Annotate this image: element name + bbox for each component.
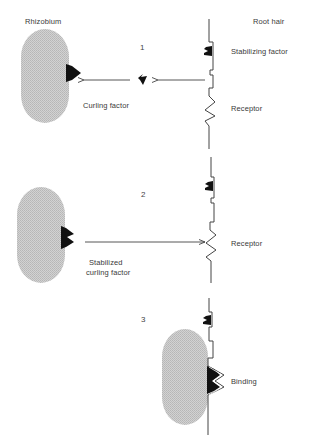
step-3-number: 3 <box>141 315 145 325</box>
step-1-number: 1 <box>140 43 144 53</box>
binding-label: Binding <box>231 377 257 387</box>
receptor-label-1: Receptor <box>231 104 262 114</box>
curling-factor-free-icon <box>138 74 147 85</box>
rhizobium-cell-2 <box>17 187 65 283</box>
curling-factor-label: Curling factor <box>83 101 129 111</box>
stabilized-curling-factor-icon <box>61 226 74 249</box>
curling-factor-bound-icon <box>66 64 81 82</box>
stabilized-label-line2: curling factor <box>86 268 130 278</box>
rhizobium-title: Rhizobium <box>25 17 61 27</box>
receptor-label-2: Receptor <box>231 239 262 249</box>
rhizobium-cell-3 <box>162 329 208 425</box>
diagram-graphics <box>0 0 311 444</box>
step-2-number: 2 <box>141 190 145 200</box>
root-hair-membrane-1 <box>205 19 215 149</box>
step-3 <box>162 298 224 435</box>
root-hair-title: Root hair <box>253 17 284 27</box>
step-1 <box>21 19 215 149</box>
stabilizing-factor-label: Stabilizing factor <box>231 47 288 57</box>
stabilizing-factor-icon-2 <box>205 181 213 191</box>
rhizobium-cell-1 <box>21 29 69 123</box>
rhizobium-root-hair-diagram: Rhizobium Root hair 1 Stabilizing factor… <box>0 0 311 444</box>
stabilized-label-line1: Stabilized <box>89 258 123 268</box>
stabilizing-factor-icon-1 <box>204 46 212 56</box>
root-hair-membrane-2 <box>206 157 216 283</box>
stabilizing-factor-icon-3 <box>203 315 211 325</box>
